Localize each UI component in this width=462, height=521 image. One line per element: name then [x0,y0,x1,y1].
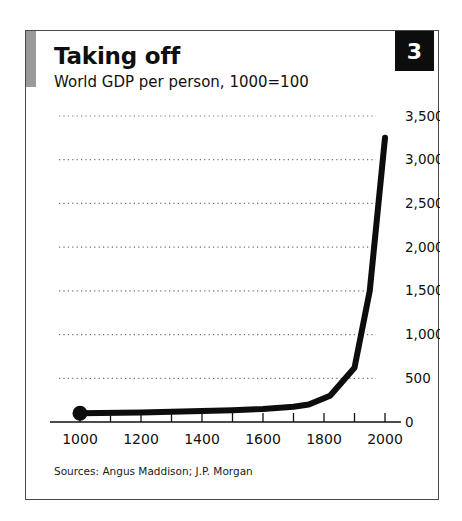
y-tick-label: 1,500 [405,282,440,298]
x-tick-label: 1400 [184,431,220,447]
chart-card: 3 Taking off World GDP per person, 1000=… [25,30,439,500]
x-tick-label: 1800 [306,431,342,447]
line-chart-svg: 05001,0001,5002,0002,5003,0003,500 10001… [26,31,440,501]
x-tick-label: 2000 [367,431,403,447]
y-axis-tick-labels: 05001,0001,5002,0002,5003,0003,500 [405,108,440,430]
gridlines-group [59,116,376,378]
x-tick-label: 1600 [245,431,281,447]
y-tick-label: 2,000 [405,239,440,255]
source-note: Sources: Angus Maddison; J.P. Morgan [54,465,253,477]
x-axis-tick-labels: 100012001400160018002000 [62,431,403,447]
x-tick-label: 1200 [123,431,159,447]
x-tick-label: 1000 [62,431,98,447]
y-tick-label: 0 [405,414,414,430]
plot-area: 05001,0001,5002,0002,5003,0003,500 10001… [26,31,440,501]
y-tick-label: 3,500 [405,108,440,124]
y-tick-label: 500 [405,370,431,386]
y-tick-label: 3,000 [405,151,440,167]
data-series-group [73,138,386,421]
y-tick-label: 1,000 [405,326,440,342]
y-tick-label: 2,500 [405,195,440,211]
